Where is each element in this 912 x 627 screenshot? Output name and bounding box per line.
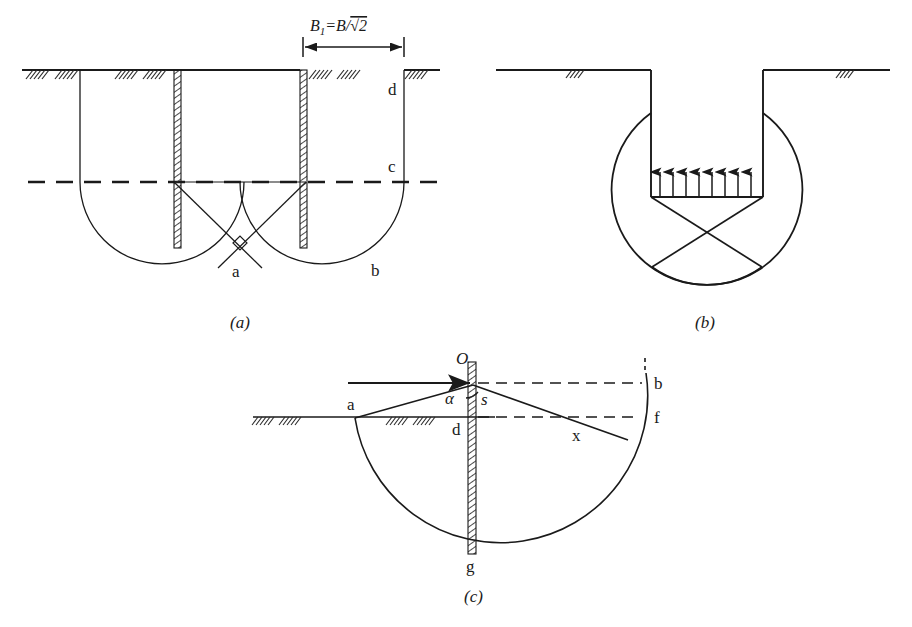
caption-c: (c) — [464, 587, 483, 606]
figure-page: B1=B/√2 a b c d (a) — [0, 0, 912, 627]
panel-b-ground-hatch-icon — [566, 70, 854, 78]
right-sheet-pile-wall — [300, 70, 307, 248]
label-a-c: a — [347, 395, 355, 414]
right-angle-marker — [233, 236, 247, 250]
panel-c-dashed-levels — [478, 383, 642, 417]
label-b: b — [371, 261, 380, 280]
dimension-label-b: B — [310, 17, 320, 34]
label-a: a — [232, 262, 240, 281]
slip-line-left — [174, 182, 262, 268]
panel-a-dimension: B1=B/√2 — [303, 17, 404, 57]
radius-line-a — [355, 385, 473, 418]
panel-a-labels: a b c d — [232, 80, 397, 281]
label-d: d — [388, 80, 397, 99]
label-g: g — [466, 557, 475, 576]
dimension-label: B1=B/√2 — [310, 17, 367, 37]
left-failure-arc — [80, 182, 244, 264]
panel-b-failure-circles — [612, 113, 803, 285]
label-alpha: α — [445, 389, 455, 408]
left-sheet-pile-wall — [174, 70, 181, 248]
dimension-label-radical: √2 — [350, 17, 367, 34]
panel-a-reference-lines — [80, 70, 404, 182]
radius-line-x — [473, 385, 628, 440]
right-failure-circle — [652, 113, 802, 285]
figure-panel-c: O α s a d b f x g (c) — [252, 349, 663, 606]
label-x: x — [572, 426, 581, 445]
label-d-c: d — [452, 420, 461, 439]
label-s: s — [481, 390, 488, 409]
panel-c-slip-arc — [355, 373, 648, 543]
panel-c-radius-lines — [355, 385, 628, 440]
panel-b-wedge — [651, 197, 763, 267]
caption-b: (b) — [695, 313, 715, 332]
panel-c-sheet-pile-wall — [468, 362, 476, 554]
panel-a-ground — [22, 70, 440, 79]
panel-c-ground-hatch-icon — [252, 417, 435, 425]
dimension-label-equals: =B/ — [325, 17, 352, 34]
caption-a: (a) — [230, 313, 250, 332]
figure-panel-a: B1=B/√2 a b c d (a) — [0, 0, 912, 627]
ground-hatch-icon — [26, 70, 428, 79]
label-f-c: f — [654, 408, 660, 427]
figure-panel-b: (b) — [496, 70, 890, 332]
panel-a-sheet-piles — [174, 70, 307, 248]
panel-b-trench — [651, 70, 763, 197]
label-c: c — [388, 157, 396, 176]
uplift-arrows — [660, 172, 751, 196]
left-failure-circle — [612, 113, 762, 285]
panel-a-failure-arcs — [80, 182, 404, 264]
label-b-c: b — [654, 374, 663, 393]
label-O: O — [456, 349, 468, 368]
slip-circle-arc — [355, 373, 648, 543]
